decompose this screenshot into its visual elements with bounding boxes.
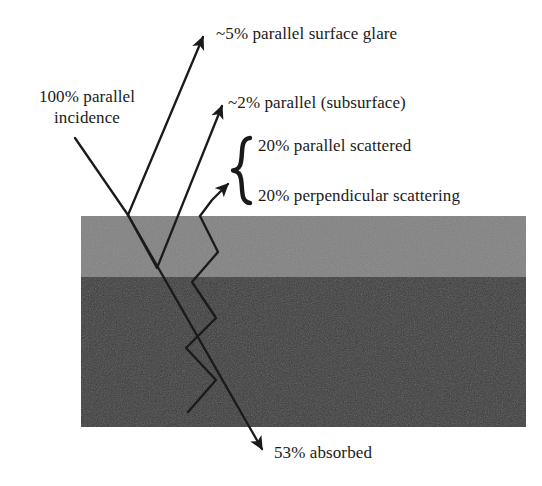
label-incidence-line1: 100% parallel [39, 87, 135, 106]
diagram-graphics [0, 0, 542, 486]
label-parallel-scattered: 20% parallel scattered [258, 136, 411, 157]
top-layer-rect [81, 216, 526, 277]
label-incidence: 100% parallel incidence [12, 86, 162, 128]
bottom-layer-rect [81, 277, 526, 427]
label-incidence-line2: incidence [54, 108, 120, 127]
incident-ray [75, 138, 128, 215]
label-absorbed: 53% absorbed [274, 443, 372, 464]
scattered-ray [200, 184, 228, 216]
label-subsurface-parallel: ~2% parallel (subsurface) [228, 93, 406, 114]
label-surface-glare: ~5% parallel surface glare [216, 24, 397, 45]
light-scattering-diagram: 100% parallel incidence ~5% parallel sur… [0, 0, 542, 486]
curly-brace [233, 138, 250, 203]
label-perpendicular-scattering: 20% perpendicular scattering [258, 186, 460, 207]
